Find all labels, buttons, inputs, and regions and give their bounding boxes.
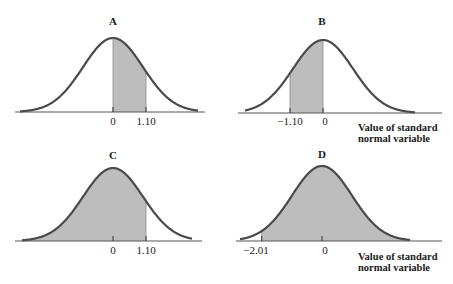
panel-c (15, 168, 202, 241)
panel-a-tick-0: 0 (110, 115, 116, 127)
panel-a-title: A (109, 15, 117, 27)
panel-d-axis-title-line1: Value of standard (358, 251, 438, 262)
panel-c-title: C (109, 149, 117, 161)
normal-distribution-figure: A B C D 0 1.10 −1.10 0 0 1.10 −2.01 0 Va… (0, 0, 453, 284)
panel-b-axis-title-line2: normal variable (358, 133, 430, 144)
panel-d-axis-title-line2: normal variable (358, 262, 430, 273)
panel-a (15, 38, 205, 112)
panel-b (238, 40, 442, 113)
panel-c-tick-1: 1.10 (136, 244, 156, 256)
panel-b-title: B (318, 15, 326, 27)
panel-c-tick-0: 0 (110, 244, 116, 256)
panel-b-tick-1: 0 (322, 115, 328, 127)
panel-d-title: D (318, 148, 326, 160)
shaded-region (262, 166, 410, 241)
normal-curve (245, 40, 415, 112)
panel-b-axis-title-line1: Value of standard (358, 122, 438, 133)
panel-b-tick-0: −1.10 (277, 115, 303, 127)
panel-a-tick-1: 1.10 (136, 115, 156, 127)
panel-d (236, 166, 442, 241)
normal-curve (20, 38, 198, 111)
shaded-region (22, 168, 146, 241)
panel-d-tick-1: 0 (322, 244, 328, 256)
panel-d-tick-0: −2.01 (243, 244, 268, 256)
